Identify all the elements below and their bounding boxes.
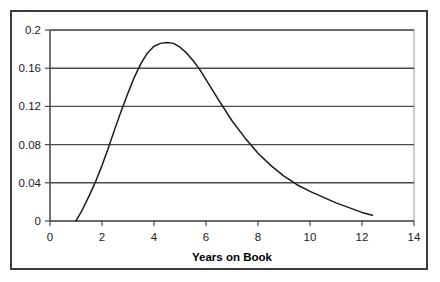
y-tick-label: 0.16 (19, 62, 41, 74)
x-tick-label: 2 (99, 231, 105, 243)
x-tick-label: 14 (408, 231, 421, 243)
x-tick-label: 12 (356, 231, 369, 243)
x-tick-label: 4 (151, 231, 158, 243)
y-tick-marks (45, 30, 50, 221)
x-axis-tick-labels: 0 2 4 6 8 10 12 14 (47, 231, 421, 243)
x-tick-marks (50, 221, 414, 226)
x-tick-label: 8 (255, 231, 261, 243)
x-tick-label: 10 (304, 231, 317, 243)
y-axis-tick-labels: 0.2 0.16 0.12 0.08 0.04 0 (19, 24, 42, 227)
x-tick-label: 6 (203, 231, 209, 243)
y-tick-label: 0 (35, 215, 41, 227)
y-tick-label: 0.2 (25, 24, 41, 36)
plot-area-background (50, 30, 414, 221)
chart-canvas: 0.2 0.16 0.12 0.08 0.04 0 0 2 4 6 8 10 1… (12, 12, 426, 268)
y-tick-label: 0.08 (19, 139, 41, 151)
y-tick-label: 0.04 (19, 177, 42, 189)
y-tick-label: 0.12 (19, 100, 41, 112)
x-axis-title: Years on Book (192, 251, 272, 263)
chart-frame: 0.2 0.16 0.12 0.08 0.04 0 0 2 4 6 8 10 1… (10, 10, 428, 270)
x-tick-label: 0 (47, 231, 53, 243)
